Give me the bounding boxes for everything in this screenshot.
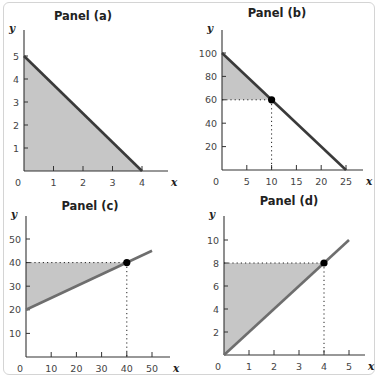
y-tick-label: 20	[205, 141, 217, 152]
y-tick-label: 50	[9, 234, 21, 245]
x-tick-label: 25	[340, 176, 352, 187]
panel-b: Panel (b)xy051015202520406080100	[199, 6, 373, 187]
y-tick-label: 100	[199, 48, 217, 59]
panel-a: Panel (a)xy0123412345	[8, 9, 178, 188]
x-axis-label: x	[365, 175, 373, 187]
y-tick-label: 80	[205, 71, 217, 82]
y-tick-label: 5	[13, 51, 19, 62]
x-tick-label: 4	[139, 177, 145, 188]
x-axis-label: x	[172, 362, 180, 374]
panel-title: Panel (c)	[61, 199, 118, 213]
data-point	[268, 96, 275, 103]
panel-title: Panel (d)	[260, 194, 319, 208]
x-tick-label: 1	[50, 177, 56, 188]
data-line	[222, 53, 346, 170]
x-tick-label: 10	[266, 176, 278, 187]
x-tick-label: 30	[96, 363, 108, 374]
y-tick-label: 2	[13, 120, 19, 131]
data-point	[123, 259, 130, 266]
x-tick-label: 50	[146, 363, 158, 374]
x-tick-label: 2	[271, 361, 277, 372]
x-tick-label: 20	[315, 176, 327, 187]
y-tick-label: 20	[9, 304, 21, 315]
panel-title: Panel (a)	[54, 9, 112, 23]
y-tick-label: 4	[213, 304, 219, 315]
x-tick-label: 40	[121, 363, 133, 374]
x-axis-label: x	[367, 360, 375, 372]
y-tick-label: 4	[13, 74, 19, 85]
y-tick-label: 8	[213, 258, 219, 269]
x-tick-label: 3	[109, 177, 115, 188]
y-tick-label: 60	[205, 94, 217, 105]
y-tick-label: 10	[9, 328, 21, 339]
y-axis-label: y	[208, 208, 216, 220]
x-axis-label: x	[170, 176, 178, 188]
x-tick-label: 3	[296, 361, 302, 372]
y-tick-label: 3	[13, 97, 19, 108]
x-tick-label: 4	[321, 361, 327, 372]
panel-c: Panel (c)xy010203040501020304050	[9, 199, 180, 374]
x-tick-label: 2	[80, 177, 86, 188]
data-point	[320, 259, 327, 266]
x-tick-label: 5	[244, 176, 250, 187]
x-tick-label: 0	[15, 177, 21, 188]
y-axis-label: y	[10, 208, 18, 220]
y-tick-label: 6	[213, 281, 219, 292]
y-tick-label: 10	[207, 235, 219, 246]
y-tick-label: 40	[205, 118, 217, 129]
x-tick-label: 5	[346, 361, 352, 372]
x-tick-label: 0	[215, 361, 221, 372]
y-tick-label: 1	[13, 143, 19, 154]
y-tick-label: 2	[213, 327, 219, 338]
y-axis-label: y	[8, 22, 16, 34]
y-tick-label: 40	[9, 257, 21, 268]
y-tick-label: 30	[9, 281, 21, 292]
x-tick-label: 0	[17, 363, 23, 374]
x-tick-label: 10	[45, 363, 57, 374]
x-tick-label: 20	[70, 363, 82, 374]
panel-title: Panel (b)	[248, 6, 307, 20]
x-tick-label: 1	[246, 361, 252, 372]
panel-d: Panel (d)xy012345246810	[207, 194, 375, 372]
four-panel-chart: Panel (a)xy0123412345Panel (b)xy05101520…	[0, 0, 380, 380]
y-axis-label: y	[206, 22, 214, 34]
x-tick-label: 15	[290, 176, 302, 187]
x-tick-label: 0	[213, 176, 219, 187]
